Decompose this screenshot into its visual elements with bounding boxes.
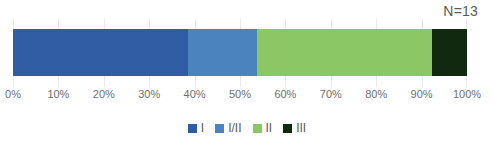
sample-size-annotation: N=13: [443, 3, 478, 19]
x-tick-label: 70%: [320, 88, 342, 100]
legend-label: I/II: [228, 122, 241, 134]
bar-segment-ii[interactable]: [257, 29, 432, 76]
chart-legend: II/IIIIIII: [0, 119, 494, 137]
legend-swatch-icon: [188, 124, 197, 133]
legend-item-ii[interactable]: II: [253, 122, 273, 134]
bar-segment-i-ii[interactable]: [188, 29, 258, 76]
plot-area: [13, 19, 467, 87]
legend-item-iii[interactable]: III: [283, 122, 306, 134]
legend-swatch-icon: [215, 124, 224, 133]
legend-item-i[interactable]: I: [188, 122, 204, 134]
legend-label: I: [201, 122, 204, 134]
x-tick-label: 10%: [47, 88, 69, 100]
x-tick-label: 40%: [184, 88, 206, 100]
legend-item-i-ii[interactable]: I/II: [215, 122, 241, 134]
x-tick-label: 50%: [229, 88, 251, 100]
x-tick-label: 20%: [93, 88, 115, 100]
x-tick-label: 100%: [453, 88, 481, 100]
legend-label: II: [266, 122, 273, 134]
x-axis-tick-labels: 0%10%20%30%40%50%60%70%80%90%100%: [0, 88, 494, 106]
bar-segment-iii[interactable]: [432, 29, 467, 76]
x-tick-label: 0%: [5, 88, 21, 100]
legend-swatch-icon: [283, 124, 292, 133]
stacked-bar-series: [13, 29, 467, 76]
x-tick-label: 60%: [274, 88, 296, 100]
x-tick-label: 80%: [365, 88, 387, 100]
legend-label: III: [296, 122, 306, 134]
x-tick-label: 90%: [411, 88, 433, 100]
x-tick-label: 30%: [138, 88, 160, 100]
bar-segment-i[interactable]: [13, 29, 188, 76]
stacked-bar-chart: N=13 0%10%20%30%40%50%60%70%80%90%100% I…: [0, 0, 494, 143]
legend-swatch-icon: [253, 124, 262, 133]
